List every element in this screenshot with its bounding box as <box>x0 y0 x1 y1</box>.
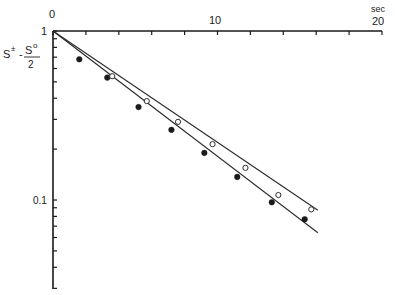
open-data-point <box>110 74 115 79</box>
y-tick-label-1: 1 <box>41 25 47 37</box>
x-tick-label-0: 0 <box>49 8 55 20</box>
y-axis-label: S ± - S o 2 <box>3 41 40 70</box>
y-tick-label-0.1: 0.1 <box>33 195 47 206</box>
filled-data-point <box>269 199 275 205</box>
filled-data-point <box>202 150 208 156</box>
filled-data-point <box>169 127 175 133</box>
ylabel-sup-pm: ± <box>11 44 16 53</box>
ylabel-s-pm: S <box>3 48 10 60</box>
open-data-point <box>309 207 314 212</box>
open-fit-line <box>53 31 318 210</box>
open-data-point <box>243 165 248 170</box>
open-data-point <box>276 192 281 197</box>
x-tick-label-20: 20 <box>372 15 384 27</box>
filled-data-point <box>77 57 83 63</box>
chart-canvas: 0 10 20 sec 1 0.1 S ± - S o 2 <box>0 0 395 295</box>
open-data-point <box>144 98 149 103</box>
open-data-point <box>210 142 215 147</box>
x-tick-label-10: 10 <box>209 14 221 26</box>
ylabel-denominator: 2 <box>28 59 34 70</box>
plot-area <box>53 31 318 233</box>
open-data-point <box>175 119 180 124</box>
filled-data-point <box>302 216 308 222</box>
ylabel-s-zero: S <box>25 44 32 56</box>
ylabel-sup-zero: o <box>33 41 38 50</box>
ylabel-minus: - <box>19 48 23 60</box>
filled-data-point <box>136 104 142 110</box>
x-axis-unit: sec <box>371 4 386 14</box>
filled-fit-line <box>53 31 318 233</box>
filled-data-point <box>234 174 240 180</box>
